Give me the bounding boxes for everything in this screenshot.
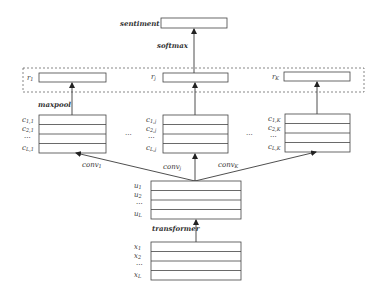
- feature-map-K: [285, 114, 350, 152]
- input-tokens-box: [151, 242, 241, 280]
- u-row-L: uL: [134, 211, 142, 218]
- fmj-row-L: cL,j: [146, 145, 156, 152]
- sentiment-box: [161, 18, 227, 28]
- conv-label-1: conv1: [82, 162, 102, 169]
- u-row-dots: ···: [136, 201, 143, 208]
- maxpool-label: maxpool: [38, 101, 71, 108]
- x-row-1: x1: [134, 244, 141, 251]
- fm1-row-L: cL,1: [22, 145, 34, 152]
- pooled-box-j: [163, 73, 228, 82]
- transformer-label: transformer: [152, 225, 199, 232]
- conv-label-j: convj: [163, 164, 181, 171]
- fmj-row-1: c1,j: [146, 117, 156, 124]
- hidden-states-box: [151, 181, 241, 219]
- fmK-row-1: c1,K: [268, 116, 280, 123]
- pooled-box-1: [39, 73, 106, 82]
- sentiment-label: sentiment: [120, 20, 160, 27]
- fm1-row-1: c1,1: [22, 117, 34, 124]
- pooled-box-K: [284, 72, 350, 81]
- u-row-2: u2: [134, 192, 142, 199]
- x-row-L: xL: [134, 272, 141, 279]
- fm1-row-dots: ···: [24, 135, 31, 142]
- feature-map-j: [163, 115, 228, 153]
- fmK-row-2: c2,K: [268, 125, 280, 132]
- x-row-dots: ···: [136, 262, 143, 269]
- fmj-row-dots: ···: [148, 135, 155, 142]
- ellipsis-right: ...: [246, 130, 253, 137]
- fmK-row-dots: ···: [270, 134, 277, 141]
- ellipsis-left: ...: [125, 130, 132, 137]
- x-row-2: x2: [134, 253, 141, 260]
- fmj-row-2: c2,j: [146, 126, 156, 133]
- u-row-1: u1: [134, 183, 142, 190]
- fmK-row-L: cL,K: [268, 144, 281, 151]
- conv-label-K: convK: [218, 162, 238, 169]
- pooled-label-j: rj: [151, 74, 156, 81]
- fm1-row-2: c2,1: [22, 126, 34, 133]
- architecture-diagram: [0, 0, 385, 298]
- softmax-label: softmax: [157, 42, 188, 49]
- conv-arrow-K: [195, 152, 316, 181]
- pooled-label-1: r1: [27, 75, 34, 82]
- feature-map-1: [39, 115, 106, 153]
- pooled-label-K: rK: [272, 74, 279, 81]
